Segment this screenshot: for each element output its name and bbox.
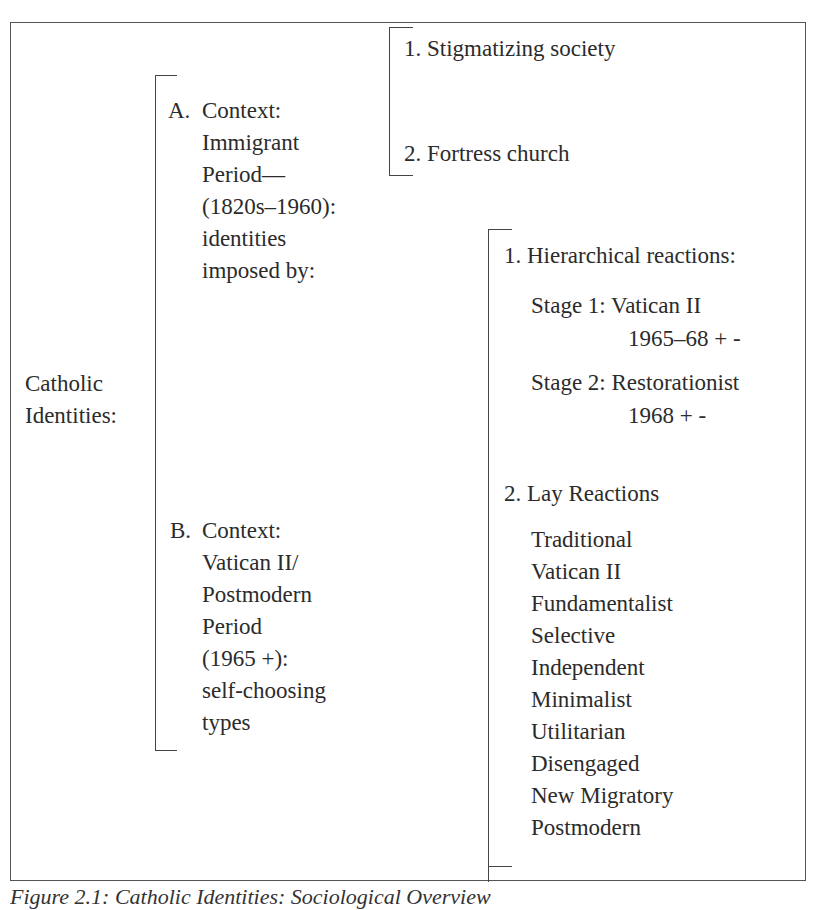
- branch-a-child-fortress: 2. Fortress church: [404, 138, 569, 170]
- branch-b-bracket-foot: [488, 866, 512, 867]
- branch-b-text: Context: Vatican II/ Postmodern Period (…: [202, 515, 326, 739]
- branch-b-line: self-choosing: [202, 675, 326, 707]
- figure-caption: Figure 2.1: Catholic Identities: Sociolo…: [10, 884, 491, 910]
- stage-2-label: Stage 2: Restorationist: [531, 367, 739, 399]
- branch-b-line: types: [202, 707, 326, 739]
- lay-types-list: Traditional Vatican II Fundamentalist Se…: [531, 524, 673, 844]
- branch-b-line: (1965 +):: [202, 643, 326, 675]
- branch-a-line: Context:: [202, 95, 336, 127]
- branch-b-marker: B.: [170, 515, 191, 547]
- root-label-line2: Identities:: [25, 400, 117, 432]
- lay-type-item: Utilitarian: [531, 716, 673, 748]
- lay-type-item: New Migratory: [531, 780, 673, 812]
- lay-heading: 2. Lay Reactions: [504, 478, 659, 510]
- lay-type-item: Selective: [531, 620, 673, 652]
- branch-a-text: Context: Immigrant Period— (1820s–1960):…: [202, 95, 336, 287]
- branch-a-child-stigmatizing: 1. Stigmatizing society: [404, 33, 615, 65]
- main-bracket: [155, 75, 177, 751]
- stage-1-label: Stage 1: Vatican II: [531, 290, 701, 322]
- branch-a-line: Period—: [202, 159, 336, 191]
- branch-a-marker: A.: [168, 95, 190, 127]
- branch-b-line: Vatican II/: [202, 547, 326, 579]
- lay-type-item: Minimalist: [531, 684, 673, 716]
- lay-type-item: Traditional: [531, 524, 673, 556]
- branch-b-line: Context:: [202, 515, 326, 547]
- branch-b-children-bracket: [488, 229, 512, 882]
- stage-2-years: 1968 + -: [628, 400, 706, 432]
- branch-a-line: imposed by:: [202, 255, 336, 287]
- branch-a-line: Immigrant: [202, 127, 336, 159]
- hierarchical-heading: 1. Hierarchical reactions:: [504, 240, 736, 272]
- lay-type-item: Independent: [531, 652, 673, 684]
- stage-1-years: 1965–68 + -: [628, 323, 741, 355]
- lay-type-item: Postmodern: [531, 812, 673, 844]
- branch-a-line: identities: [202, 223, 336, 255]
- root-label-line1: Catholic: [25, 368, 103, 400]
- lay-type-item: Disengaged: [531, 748, 673, 780]
- branch-b-line: Period: [202, 611, 326, 643]
- lay-type-item: Vatican II: [531, 556, 673, 588]
- branch-b-line: Postmodern: [202, 579, 326, 611]
- branch-a-line: (1820s–1960):: [202, 191, 336, 223]
- lay-type-item: Fundamentalist: [531, 588, 673, 620]
